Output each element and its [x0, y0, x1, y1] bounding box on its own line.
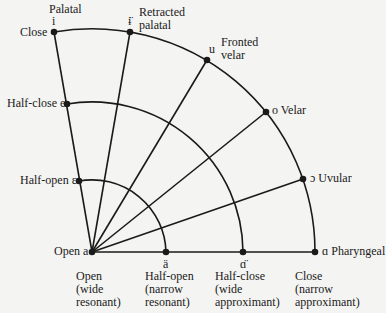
radial-line-palatal — [54, 32, 92, 252]
label-velar: o Velar — [272, 104, 306, 117]
radial-line-velar — [92, 112, 266, 252]
point-fronted-velar — [204, 57, 211, 64]
point-half-open — [76, 178, 83, 185]
bottom-label-half-close: Half-close (wide approximant) — [215, 270, 280, 309]
point-half-close-horizontal — [240, 249, 247, 256]
bottom-label-line: resonant) — [76, 296, 121, 309]
point-palatal — [51, 29, 58, 36]
label-close: Close — [20, 26, 47, 39]
bottom-label-open: Open (wide resonant) — [76, 270, 121, 309]
point-pharyngeal — [312, 249, 319, 256]
label-close-symbol: i — [52, 15, 55, 28]
point-origin — [89, 249, 96, 256]
radial-line-uvular — [92, 179, 303, 252]
bottom-label-close: Close (narrow approximant) — [295, 270, 360, 309]
point-uvular — [300, 176, 307, 183]
bottom-label-line: resonant) — [145, 296, 194, 309]
point-half-open-horizontal — [163, 249, 170, 256]
bottom-label-line: approximant) — [295, 296, 360, 309]
arc-close — [54, 29, 315, 252]
label-uvular: ɔ Uvular — [310, 172, 352, 185]
vowel-diagram — [0, 0, 386, 313]
label-retracted-symbol: ɨ̈ — [128, 15, 131, 28]
label-pharyngeal: ɑ Pharyngeal — [322, 245, 385, 258]
label-half-close: Half-close e — [7, 97, 65, 110]
bottom-label-line: approximant) — [215, 296, 280, 309]
label-retracted-2: palatal — [139, 19, 171, 32]
label-fronted-2: velar — [221, 49, 245, 62]
point-retracted-palatal — [127, 29, 134, 36]
bottom-label-half-open: Half-open (narrow resonant) — [145, 270, 194, 309]
label-half-open: Half-open ε — [20, 174, 77, 187]
point-velar — [263, 109, 270, 116]
label-open: Open a — [54, 245, 88, 258]
label-fronted-symbol: u — [209, 43, 215, 56]
